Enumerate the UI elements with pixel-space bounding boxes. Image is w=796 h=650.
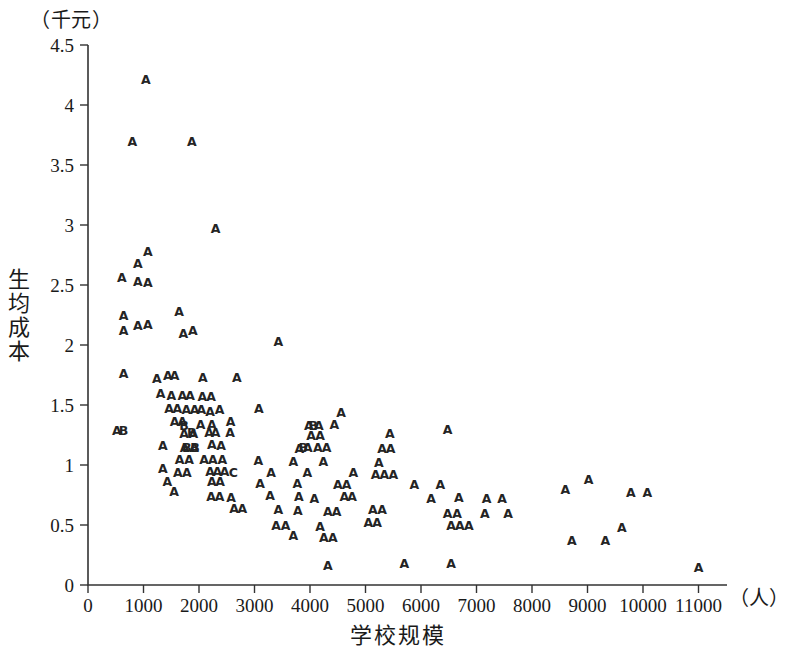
data-point-marker-a: A: [294, 489, 304, 504]
x-axis-tick-label: 6000: [402, 595, 440, 616]
data-point-marker-a: A: [266, 465, 276, 480]
data-point-marker-a: A: [302, 465, 312, 480]
data-point-marker-a: A: [152, 371, 162, 386]
data-point-marker-a: A: [497, 491, 507, 506]
data-point-marker-a: A: [133, 318, 143, 333]
data-point-marker-a: A: [119, 308, 129, 323]
data-point-marker-a: A: [117, 270, 127, 285]
data-point-marker-a: A: [617, 520, 627, 535]
y-axis-tick-label: 2.5: [50, 275, 74, 296]
data-point-marker-a: A: [254, 401, 264, 416]
data-point-marker-a: A: [185, 388, 195, 403]
data-point-marker-a: A: [480, 506, 490, 521]
data-point-marker-a: A: [143, 317, 153, 332]
data-point-marker-a: A: [643, 485, 653, 500]
data-point-marker-a: A: [584, 472, 594, 487]
data-point-marker-a: A: [174, 304, 184, 319]
data-point-marker-a: A: [274, 334, 284, 349]
data-point-marker-a: A: [347, 489, 357, 504]
data-point-marker-a: A: [482, 491, 492, 506]
data-point-marker-a: A: [426, 491, 436, 506]
data-point-marker-a: A: [265, 488, 275, 503]
x-axis-tick-label: 8000: [513, 595, 551, 616]
data-point-marker-a: A: [198, 370, 208, 385]
data-point-marker-a: A: [225, 425, 235, 440]
data-point-marker-b: B: [309, 418, 319, 433]
data-point-marker-a: A: [133, 274, 143, 289]
data-point-marker-b: B: [119, 423, 129, 438]
data-point-marker-a: A: [446, 556, 456, 571]
data-point-marker-a: A: [626, 485, 636, 500]
data-point-marker-a: A: [215, 402, 225, 417]
plot-canvas: 00.511.522.533.544.5 0100020003000400050…: [0, 0, 796, 650]
data-point-marker-a: A: [254, 453, 264, 468]
data-point-marker-a: A: [328, 530, 338, 545]
data-point-marker-b: B: [299, 440, 309, 455]
data-point-marker-a: A: [215, 474, 225, 489]
data-point-marker-a: A: [454, 490, 464, 505]
data-point-marker-a: A: [388, 467, 398, 482]
y-axis-tick-label: 3: [65, 215, 75, 236]
data-point-marker-a: A: [386, 441, 396, 456]
data-point-marker-a: A: [211, 221, 221, 236]
data-point-marker-a: A: [143, 275, 153, 290]
x-axis-tick-label: 3000: [236, 595, 274, 616]
data-point-marker-a: A: [464, 518, 474, 533]
data-point-marker-a: A: [560, 482, 570, 497]
data-point-marker-a: A: [567, 533, 577, 548]
data-point-marker-a: A: [237, 501, 247, 516]
data-point-marker-a: A: [143, 244, 153, 259]
data-point-marker-a: A: [215, 489, 225, 504]
data-point-marker-a: A: [170, 368, 180, 383]
y-axis-tick-label: 0.5: [50, 515, 74, 536]
x-axis-tick-label: 1000: [125, 595, 163, 616]
data-point-marker-a: A: [158, 438, 168, 453]
x-axis-tick-label: 11000: [675, 595, 722, 616]
data-point-group: AAAAAAAAAAAAAAAAAAAAAAAAAAAAAAAAAAAAAAAA…: [112, 72, 704, 574]
y-axis-tick-label: 4: [65, 95, 75, 116]
y-axis-tick-label: 4.5: [50, 35, 74, 56]
data-point-marker-a: A: [133, 256, 143, 271]
x-axis-tick-label: 2000: [180, 595, 218, 616]
data-point-marker-a: A: [255, 476, 265, 491]
data-point-marker-a: A: [503, 506, 513, 521]
data-point-marker-a: A: [274, 502, 284, 517]
data-point-marker-a: A: [128, 134, 138, 149]
y-axis-tick-label: 1: [65, 455, 75, 476]
data-point-marker-a: A: [323, 558, 333, 573]
data-point-marker-a: A: [694, 560, 704, 575]
x-axis-tick-label: 4000: [291, 595, 329, 616]
data-point-marker-b: B: [187, 425, 197, 440]
data-point-marker-a: A: [330, 417, 340, 432]
data-point-marker-a: A: [600, 533, 610, 548]
data-point-marker-a: A: [409, 477, 419, 492]
data-point-marker-a: A: [318, 454, 328, 469]
x-axis-tick-label: 10000: [619, 595, 667, 616]
y-axis-tick-label: 0: [65, 575, 75, 596]
data-point-marker-a: A: [310, 491, 320, 506]
x-axis-tick-label: 9000: [569, 595, 607, 616]
scatter-plot-figure: （千元） （人） 生均成本 学校规模 00.511.522.533.544.5 …: [0, 0, 796, 650]
data-point-marker-a: A: [156, 386, 166, 401]
data-point-marker-a: A: [332, 504, 342, 519]
data-point-marker-a: A: [188, 323, 198, 338]
data-point-marker-a: A: [443, 422, 453, 437]
x-axis-tick-label: 5000: [347, 595, 385, 616]
data-point-marker-a: A: [119, 366, 129, 381]
data-point-marker-a: A: [322, 440, 332, 455]
x-axis-tick-group: 0100020003000400050006000700080009000100…: [83, 585, 722, 616]
data-point-marker-a: A: [289, 454, 299, 469]
data-point-marker-a: A: [385, 426, 395, 441]
data-point-marker-a: A: [119, 323, 129, 338]
x-axis-tick-label: 7000: [458, 595, 496, 616]
y-axis-tick-label: 2: [65, 335, 75, 356]
data-point-marker-a: A: [187, 134, 197, 149]
data-point-marker-a: A: [169, 484, 179, 499]
data-point-marker-c: C: [229, 465, 238, 480]
data-point-marker-a: A: [293, 503, 303, 518]
y-axis-tick-label: 3.5: [50, 155, 74, 176]
y-axis-tick-group: 00.511.522.533.544.5: [50, 35, 88, 596]
data-point-marker-a: A: [436, 477, 446, 492]
x-axis-tick-label: 0: [83, 595, 93, 616]
data-point-marker-a: A: [182, 465, 192, 480]
